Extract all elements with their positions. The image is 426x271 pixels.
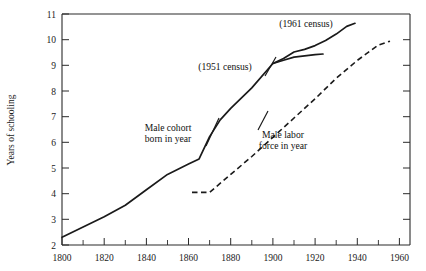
x-tick-label-1900: 1900	[263, 253, 282, 263]
y-tick-label-8: 8	[51, 87, 56, 97]
annotation-male-cohort-line1: Male cohort	[145, 122, 192, 133]
data-series-group	[62, 23, 390, 237]
chart-figure: 11 10 9 8 7 6 5 4 3 2	[0, 0, 426, 271]
y-axis-title: Years of schooling	[6, 94, 16, 165]
schooling-years-line-chart: 11 10 9 8 7 6 5 4 3 2	[0, 0, 426, 271]
y-tick-label-10: 10	[47, 35, 57, 45]
x-tick-label-1820: 1820	[95, 253, 114, 263]
x-tick-label-1880: 1880	[221, 253, 240, 263]
y-tick-label-3: 3	[51, 215, 56, 225]
y-tick-label-2: 2	[51, 241, 56, 251]
y-axis-ticks	[62, 14, 69, 245]
y-tick-label-11: 11	[47, 10, 56, 20]
x-tick-label-1840: 1840	[137, 253, 156, 263]
x-tick-label-1920: 1920	[306, 253, 325, 263]
annotation-1961-census: (1961 census)	[279, 18, 333, 30]
leader-line-male-cohort	[206, 118, 219, 146]
x-axis-tick-labels: 1800 1820 1840 1860 1880 1900 1920 1940 …	[53, 253, 410, 263]
annotations-group: (1961 census) (1951 census) Male cohort …	[145, 18, 333, 151]
series-male-cohort-1951-census	[273, 54, 323, 64]
y-axis-right-ticks	[403, 40, 410, 220]
y-tick-label-4: 4	[51, 189, 56, 199]
annotation-male-labor-line2: force in year	[259, 140, 308, 151]
y-tick-label-9: 9	[51, 61, 56, 71]
x-axis-ticks	[62, 238, 399, 245]
annotation-male-cohort-line2: born in year	[145, 133, 192, 144]
annotation-1951-census: (1951 census)	[198, 61, 252, 73]
x-tick-label-1960: 1960	[390, 253, 409, 263]
y-tick-label-7: 7	[51, 112, 56, 122]
annotation-male-labor-line1: Male labor	[262, 129, 305, 140]
leader-line-male-labor	[258, 111, 268, 130]
leader-line-1951-census	[265, 57, 276, 76]
x-tick-label-1940: 1940	[348, 253, 367, 263]
y-tick-label-5: 5	[51, 164, 56, 174]
y-tick-label-6: 6	[51, 138, 56, 148]
y-axis-tick-labels: 11 10 9 8 7 6 5 4 3 2	[47, 10, 57, 251]
x-tick-label-1860: 1860	[179, 253, 198, 263]
x-tick-label-1800: 1800	[53, 253, 72, 263]
